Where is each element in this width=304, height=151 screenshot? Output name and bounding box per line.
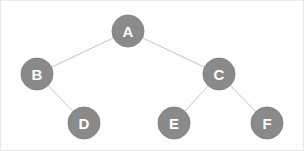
tree-diagram-canvas: ABCDEF [0,0,304,151]
tree-edge-a-c [142,37,206,67]
tree-node-e[interactable]: E [158,107,190,139]
tree-edge-a-b [51,37,115,67]
tree-edge-b-d [47,85,73,112]
tree-node-label-e: E [169,115,179,132]
tree-node-label-a: A [123,23,134,40]
tree-node-d[interactable]: D [68,107,100,139]
tree-node-label-c: C [214,66,225,83]
tree-node-label-b: B [32,66,43,83]
tree-node-c[interactable]: C [203,58,235,90]
tree-node-label-d: D [79,115,90,132]
tree-node-a[interactable]: A [112,15,144,47]
tree-node-label-f: F [262,115,271,132]
tree-node-b[interactable]: B [21,58,53,90]
tree-edge-c-e [184,85,209,112]
node-layer: ABCDEF [21,15,283,139]
tree-graph: ABCDEF [1,1,304,151]
tree-node-f[interactable]: F [251,107,283,139]
tree-edge-c-f [230,85,257,113]
